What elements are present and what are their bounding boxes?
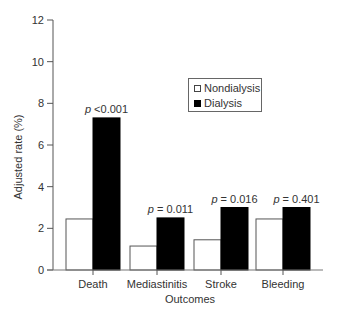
x-tick-label: Bleeding	[262, 278, 305, 290]
p-value-annotation: p = 0.401	[272, 193, 319, 205]
y-tick-label: 2	[38, 222, 44, 234]
dialysis-swatch	[194, 100, 201, 107]
p-value-annotation: p <0.001	[84, 103, 128, 115]
bar-dialysis-bleeding	[283, 208, 310, 271]
chart-legend: Nondialysis Dialysis	[188, 78, 262, 112]
legend-item-nondialysis: Nondialysis	[194, 81, 261, 96]
x-tick-label: Mediastinitis	[127, 278, 188, 290]
y-tick-label: 4	[38, 181, 44, 193]
p-value-annotation: p = 0.011	[147, 203, 193, 215]
legend-label-nondialysis: Nondialysis	[204, 81, 260, 96]
x-tick-label: Death	[78, 278, 107, 290]
p-value-annotation: p = 0.016	[210, 193, 257, 205]
y-tick-label: 8	[38, 97, 44, 109]
bar-dialysis-mediastinitis	[157, 218, 184, 270]
y-tick-label: 6	[38, 139, 44, 151]
bar-dialysis-stroke	[221, 208, 248, 271]
y-tick-label: 12	[32, 14, 44, 26]
bar-dialysis-death	[93, 118, 120, 270]
legend-label-dialysis: Dialysis	[204, 96, 242, 111]
nondialysis-swatch	[194, 85, 201, 92]
bar-nondialysis-stroke	[194, 240, 221, 270]
x-tick-label: Stroke	[205, 278, 237, 290]
x-axis-title: Outcomes	[165, 293, 216, 305]
legend-item-dialysis: Dialysis	[194, 96, 261, 111]
bar-nondialysis-death	[66, 219, 93, 270]
bar-chart: 024681012Adjusted rate (%)p <0.001Deathp…	[0, 0, 338, 316]
y-axis-title: Adjusted rate (%)	[12, 115, 24, 200]
bar-nondialysis-mediastinitis	[130, 246, 157, 270]
bar-nondialysis-bleeding	[256, 219, 283, 270]
y-tick-label: 10	[32, 56, 44, 68]
y-tick-label: 0	[38, 264, 44, 276]
